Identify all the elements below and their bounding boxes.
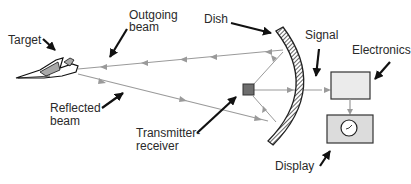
- signal-pointer: [316, 49, 319, 76]
- dish-pointer: [231, 23, 271, 33]
- display-label: Display: [275, 160, 314, 173]
- dish-reflector: [268, 27, 304, 145]
- signal-label: Signal: [305, 29, 338, 42]
- transmitter-receiver-box: [243, 84, 254, 95]
- outgoing-beam: [78, 49, 283, 70]
- electronics-pointer: [375, 62, 390, 79]
- reflected-beam-label-line2: beam: [50, 115, 80, 128]
- radar-diagram: [0, 0, 411, 184]
- electronics-to-display-arrow: [347, 99, 353, 115]
- display-box: [327, 115, 373, 143]
- electronics-label: Electronics: [352, 44, 411, 57]
- target-pointer: [43, 39, 55, 50]
- dish-label: Dish: [204, 13, 228, 26]
- transmitter-pointer: [197, 97, 236, 133]
- outgoing-beam-pointer: [110, 29, 127, 57]
- display-pointer: [320, 151, 330, 166]
- target-aircraft: [16, 58, 78, 78]
- transmitter-receiver-label-line2: receiver: [136, 140, 179, 153]
- feed-lines: [253, 52, 322, 122]
- reflected-beam-pointer: [102, 93, 123, 108]
- electronics-box: [331, 72, 370, 99]
- signal-line: [324, 87, 331, 93]
- reflected-beam: [78, 74, 268, 121]
- outgoing-beam-label-line2: beam: [129, 21, 159, 34]
- target-label: Target: [8, 34, 41, 47]
